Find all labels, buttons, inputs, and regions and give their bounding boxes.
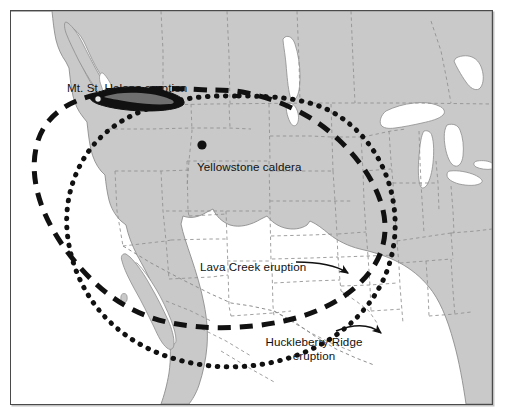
label-mt-st-helens-eruption: Mt. St. Helens eruption: [67, 81, 187, 94]
label-lava-creek-eruption: Lava Creek eruption: [200, 260, 306, 273]
volcanic-ashfall-map-figure: Mt. St. Helens eruption Yellowstone cald…: [0, 0, 505, 419]
map-canvas: [11, 11, 492, 404]
yellowstone-caldera-dot: [197, 140, 206, 149]
label-huckleberry-ridge-eruption: Huckleberry Ridgeeruption: [254, 335, 374, 363]
label-yellowstone-caldera: Yellowstone caldera: [197, 160, 302, 173]
label-huckleberry-line-2: eruption: [293, 349, 336, 362]
label-huckleberry-line-1: Huckleberry Ridge: [265, 335, 362, 348]
mt-st-helens-vent-marker: [95, 96, 102, 103]
map-frame: Mt. St. Helens eruption Yellowstone cald…: [10, 10, 493, 405]
